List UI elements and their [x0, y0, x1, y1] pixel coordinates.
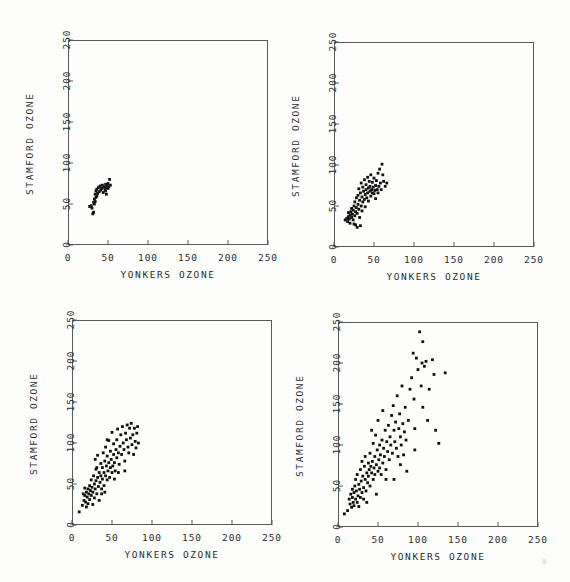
data-point — [367, 475, 370, 478]
data-point — [372, 442, 375, 445]
data-point — [437, 442, 440, 445]
data-point — [407, 419, 410, 422]
data-point — [401, 385, 404, 388]
data-point — [413, 449, 416, 452]
data-point — [357, 483, 360, 486]
data-point — [417, 368, 420, 371]
data-point — [381, 439, 384, 442]
data-point — [343, 512, 346, 515]
data-point — [421, 406, 424, 409]
data-point — [377, 470, 380, 473]
y-tick-label: 200 — [331, 351, 342, 375]
data-point — [371, 460, 374, 463]
data-point — [374, 434, 377, 437]
data-point — [420, 385, 423, 388]
data-point — [352, 501, 355, 504]
data-point — [389, 444, 392, 447]
data-point — [378, 467, 381, 470]
data-point — [421, 340, 424, 343]
data-point — [381, 462, 384, 465]
data-point — [359, 468, 362, 471]
data-point — [370, 471, 373, 474]
data-point — [405, 470, 408, 473]
data-point — [373, 455, 376, 458]
data-point — [385, 478, 388, 481]
data-point — [365, 501, 368, 504]
data-point — [393, 429, 396, 432]
data-point — [389, 435, 392, 438]
figure-scatterplot-matrix: 050100150200250050100150200250YONKERS OZ… — [0, 0, 570, 582]
data-point — [431, 358, 434, 361]
data-point — [385, 440, 388, 443]
data-point — [365, 490, 368, 493]
data-point — [380, 473, 383, 476]
data-point — [377, 419, 380, 422]
data-point — [426, 419, 429, 422]
data-point — [361, 491, 364, 494]
data-point — [402, 453, 405, 456]
x-axis-label: YONKERS OZONE — [390, 551, 485, 562]
data-point — [382, 447, 385, 450]
data-point — [428, 388, 431, 391]
data-point — [410, 376, 413, 379]
data-point — [401, 422, 404, 425]
data-point — [359, 496, 362, 499]
data-point — [354, 498, 357, 501]
data-point — [362, 498, 365, 501]
data-point — [394, 421, 397, 424]
x-tick-label: 250 — [528, 534, 548, 545]
data-point — [368, 468, 371, 471]
data-point — [361, 475, 364, 478]
data-point — [412, 352, 415, 355]
data-point — [400, 444, 403, 447]
y-tick-label: 150 — [331, 392, 342, 416]
data-point — [399, 435, 402, 438]
data-point — [360, 480, 363, 483]
data-point — [403, 430, 406, 433]
y-tick-label: 250 — [331, 310, 342, 334]
data-point — [351, 488, 354, 491]
y-axis-label: STAMFORD OZONE — [294, 374, 305, 476]
data-point — [349, 503, 352, 506]
y-tick-label: 100 — [331, 433, 342, 457]
data-point — [366, 481, 369, 484]
data-point — [395, 447, 398, 450]
data-point — [418, 330, 421, 333]
data-point — [384, 429, 387, 432]
data-point — [397, 455, 400, 458]
data-point — [369, 465, 372, 468]
data-point — [399, 463, 402, 466]
data-point — [375, 493, 378, 496]
data-point — [423, 365, 426, 368]
data-point — [398, 412, 401, 415]
data-point — [379, 453, 382, 456]
y-tick-label: 50 — [331, 474, 342, 498]
data-point — [369, 485, 372, 488]
data-point — [367, 462, 370, 465]
data-point — [353, 491, 356, 494]
data-point — [354, 478, 357, 481]
data-point — [388, 458, 391, 461]
data-point — [390, 414, 393, 417]
data-point — [369, 452, 372, 455]
data-point — [358, 488, 361, 491]
data-point — [351, 496, 354, 499]
data-point — [409, 388, 412, 391]
data-point — [372, 478, 375, 481]
data-point — [421, 362, 424, 365]
data-point — [356, 473, 359, 476]
data-point — [365, 471, 368, 474]
data-point — [404, 406, 407, 409]
data-point — [377, 458, 380, 461]
data-point — [444, 371, 447, 374]
data-point — [433, 373, 436, 376]
data-point — [385, 468, 388, 471]
data-point — [356, 501, 359, 504]
data-point — [375, 463, 378, 466]
data-point — [350, 506, 353, 509]
x-tick-label: 200 — [488, 534, 508, 545]
data-point — [381, 409, 384, 412]
data-point — [361, 460, 364, 463]
data-point — [357, 494, 360, 497]
data-point — [405, 439, 408, 442]
